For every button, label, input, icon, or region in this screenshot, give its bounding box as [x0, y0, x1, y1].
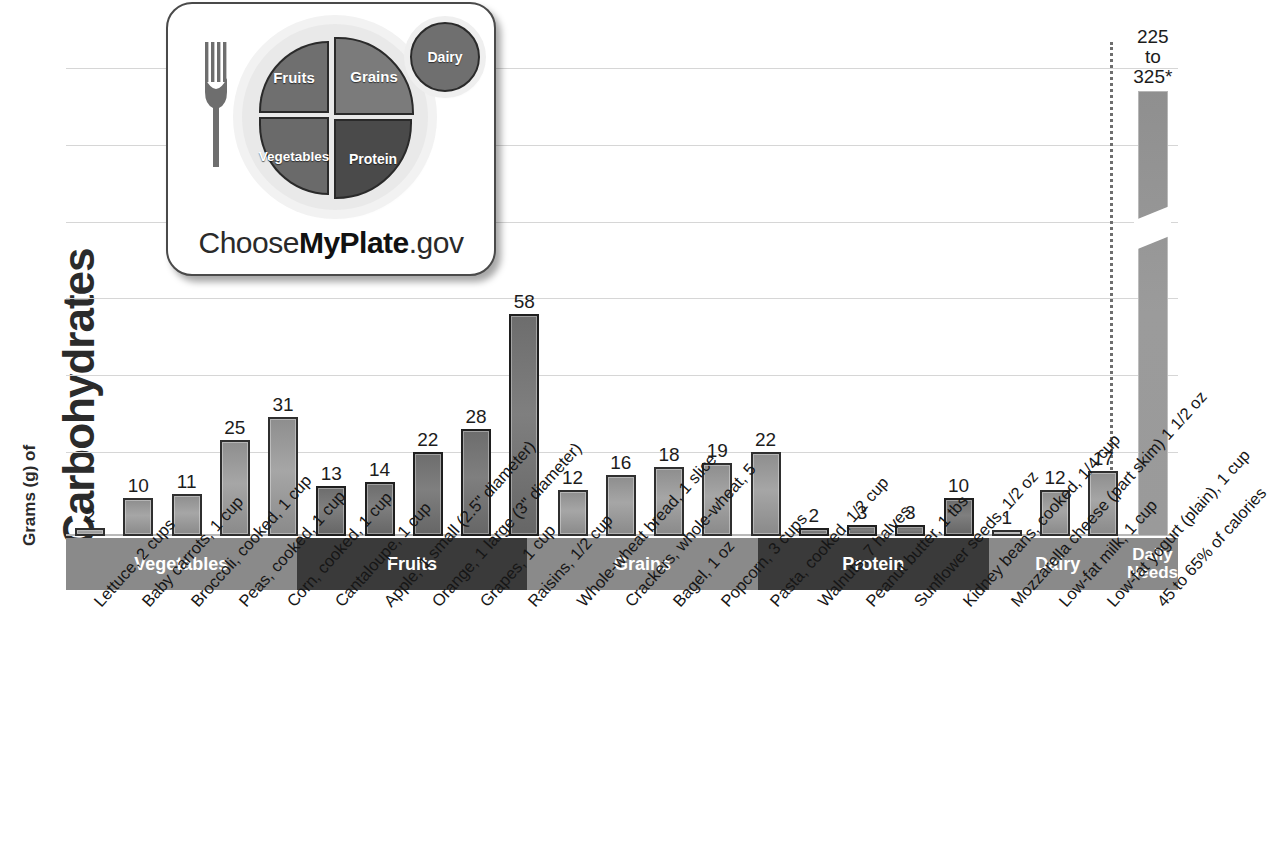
bar[interactable]: 2 [75, 528, 105, 536]
x-axis-label-row: Lettuce, 2 cupsBaby carrots, 1 cupBrocco… [66, 594, 1178, 844]
bar[interactable]: 22 [751, 452, 781, 536]
x-label-slot: Peanut butter, 1 tbs [838, 594, 886, 844]
x-label-slot: 45 to 65% of calories [1128, 594, 1179, 844]
bar-value-label: 13 [321, 463, 342, 485]
x-label-slot: Kidney beans, cooked, 1/4 cup [935, 594, 983, 844]
x-label-slot: Cantaloupe, 1 cup [307, 594, 355, 844]
x-label-slot: Sunflower seeds, 1/2 oz [886, 594, 934, 844]
bar-slot: 2 [66, 62, 114, 536]
y-axis-subtitle: Grams (g) of [20, 445, 40, 546]
x-label-slot: Baby carrots, 1 cup [114, 594, 162, 844]
x-label-slot: Grapes, 1 cup [452, 594, 500, 844]
bar-slot: 18 [645, 62, 693, 536]
bar-value-label: 2 [85, 505, 96, 527]
choosemyplate-logo: Fruits Vegetables Grains Protein Dairy C… [166, 2, 496, 276]
x-label-slot: Crackers, whole-wheat, 5 [597, 594, 645, 844]
bar-value-label: 2 [809, 505, 820, 527]
wordmark-gov: .gov [409, 226, 464, 259]
x-label-slot: Broccoli, cooked, 1 cup [163, 594, 211, 844]
x-label-slot: Low-fat yogurt (plain), 1 cup [1079, 594, 1127, 844]
plate-section-grains: Grains [334, 37, 414, 115]
bar-value-label: 18 [659, 444, 680, 466]
x-label-slot: Raisins, 1/2 cup [500, 594, 548, 844]
wordmark-myplate: MyPlate [299, 226, 409, 259]
x-label-slot: Orange, 1 large (3" diameter) [404, 594, 452, 844]
bar[interactable]: 12 [558, 490, 588, 536]
plate-section-dairy: Dairy [410, 22, 480, 92]
x-label-slot: Mozzarella cheese (part skim) 1 1/2 oz [983, 594, 1031, 844]
bar-value-label: 28 [466, 406, 487, 428]
bar-slot: 12 [1031, 62, 1079, 536]
x-label-slot: Corn, cooked, 1 cup [259, 594, 307, 844]
bar-value-label: 10 [128, 475, 149, 497]
bar-value-label: 58 [514, 291, 535, 313]
plate-section-fruits: Fruits [259, 41, 329, 113]
x-label-slot: Lettuce, 2 cups [66, 594, 114, 844]
bar-slot: 10 [114, 62, 162, 536]
bar-slot: 2 [790, 62, 838, 536]
x-label-slot: Peas, cooked, 1 cup [211, 594, 259, 844]
bar-slot: 10 [935, 62, 983, 536]
x-label-slot: Pasta, cooked, 1/2 cup [742, 594, 790, 844]
x-label-slot: Bagel, 1 oz [645, 594, 693, 844]
bar-slot: 1 [983, 62, 1031, 536]
plate-graphic: Fruits Vegetables Grains Protein [242, 24, 428, 210]
bar[interactable]: 10 [123, 498, 153, 536]
y-axis-title: Grams (g) of Carbohydrates [0, 0, 68, 560]
bar-value-label: 25 [224, 417, 245, 439]
bar-value-label: 14 [369, 459, 390, 481]
x-label-slot: Apple, 1 small (2.5" diameter) [356, 594, 404, 844]
bar-value-label: 11 [177, 471, 197, 493]
wordmark-choose: Choose [198, 226, 298, 259]
bar-value-label: 16 [610, 452, 631, 474]
x-label-slot: Popcorn, 3 cups [693, 594, 741, 844]
x-label-slot: Walnuts, 7 halves [790, 594, 838, 844]
bar-slot: 3 [838, 62, 886, 536]
choosemyplate-wordmark: ChooseMyPlate.gov [168, 226, 494, 260]
bar-value-label: 225 to 325* [1133, 27, 1172, 87]
bar-value-label: 22 [417, 429, 438, 451]
bar-value-label: 31 [273, 394, 294, 416]
fork-icon [204, 42, 230, 167]
bar-slot: 3 [886, 62, 934, 536]
x-label-slot: Low-fat milk, 1 cup [1031, 594, 1079, 844]
plate-section-vegetables: Vegetables [259, 117, 329, 195]
x-label-slot: Whole-wheat bread, 1 slice [549, 594, 597, 844]
plate-section-protein: Protein [334, 119, 412, 199]
bar-value-label: 22 [755, 429, 776, 451]
bar-slot: 16 [597, 62, 645, 536]
